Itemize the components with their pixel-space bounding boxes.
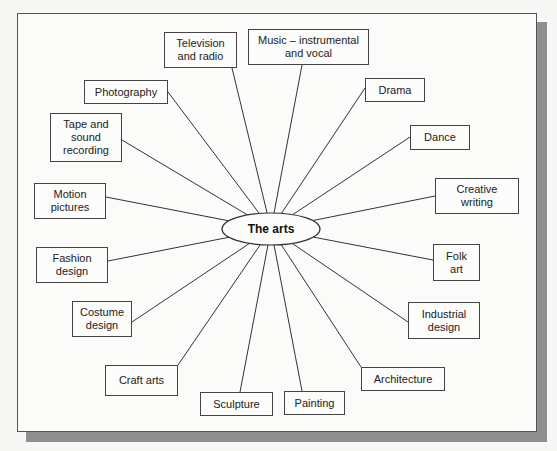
connector-costume <box>132 243 250 322</box>
node-craft: Craft arts <box>105 365 178 396</box>
connector-television <box>232 68 267 213</box>
node-sculpture: Sculpture <box>200 392 273 416</box>
node-motion: Motion pictures <box>34 183 106 219</box>
node-tape: Tape and sound recording <box>50 113 122 162</box>
node-music: Music – instrumental and vocal <box>248 29 369 65</box>
node-television: Television and radio <box>164 32 237 68</box>
node-photography: Photography <box>84 80 168 104</box>
connector-dance <box>293 137 410 215</box>
node-painting: Painting <box>284 391 345 415</box>
node-industrial: Industrial design <box>408 302 480 339</box>
node-dance: Dance <box>410 125 470 150</box>
connector-craft <box>178 245 260 365</box>
center-node-label: The arts <box>222 213 320 245</box>
connector-folk <box>313 237 433 260</box>
node-drama: Drama <box>365 78 425 102</box>
connector-motion <box>106 197 229 221</box>
connector-industrial <box>292 243 408 322</box>
node-folk: Folk art <box>433 244 480 281</box>
connector-painting <box>274 245 302 391</box>
connector-sculpture <box>240 245 268 392</box>
node-architecture: Architecture <box>361 367 445 391</box>
node-fashion: Fashion design <box>36 247 108 283</box>
connector-fashion <box>108 237 229 261</box>
node-costume: Costume design <box>72 301 132 337</box>
figure-caption-cropped <box>17 446 217 451</box>
connector-creative <box>313 196 435 221</box>
connector-music <box>274 65 302 213</box>
node-creative: Creative writing <box>435 178 519 214</box>
